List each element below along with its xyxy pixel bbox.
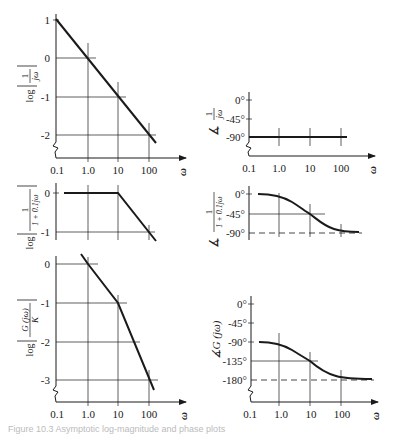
ytick-ph3-90: -90°	[228, 336, 247, 348]
figure-caption: Figure 10.3 Asymptotic log-magnitude and…	[8, 424, 225, 434]
xlabel-omega-c: ω	[177, 412, 189, 420]
xlabel-omega-a: ω	[176, 168, 188, 176]
svg-text:log: log	[24, 237, 35, 250]
xtick-a-1: 1.0	[81, 164, 95, 176]
svg-text:jω: jω	[30, 72, 40, 82]
ylabel-phase-integrator: ∡ 1 jω	[204, 108, 224, 136]
curve-mag-total	[81, 254, 154, 390]
ytick-mag1-0: 0	[45, 52, 51, 64]
svg-text:∡G (jω): ∡G (jω)	[210, 320, 223, 359]
ytick-ph3-45: -45°	[228, 317, 247, 329]
ytick-ph2-45: -45°	[226, 208, 245, 220]
xtick-a-2: 10	[113, 164, 125, 176]
ylabel-phase-total: ∡G (jω)	[210, 320, 223, 359]
svg-text:K: K	[30, 316, 40, 324]
svg-text:1 + 0.1jω: 1 + 0.1jω	[31, 194, 40, 226]
xtick-c-2: 10	[113, 408, 125, 420]
ytick-ph3-180: -180°	[222, 374, 247, 386]
svg-text:1: 1	[20, 208, 30, 213]
xlabel-omega-b: ω	[366, 166, 378, 174]
ytick-mag2-0: 0	[45, 187, 51, 199]
svg-text:G (jω): G (jω)	[20, 308, 30, 332]
curve-mag-lag	[64, 193, 156, 241]
ytick-ph3-135: -135°	[222, 355, 247, 367]
ytick-ph1-45: -45°	[226, 113, 245, 125]
xtick-b-3: 100	[333, 162, 350, 174]
ylabel-mag-lag: log 1 1 + 0.1jω	[17, 186, 40, 249]
ytick-mag1-m1: -1	[41, 91, 50, 103]
svg-text:∡: ∡	[207, 237, 221, 248]
curve-phase-total	[259, 342, 372, 379]
xlabel-omega-d: ω	[369, 412, 381, 420]
svg-text:log: log	[24, 90, 35, 103]
ytick-mag3-m1: -1	[41, 297, 50, 309]
svg-text:1: 1	[204, 112, 214, 117]
svg-text:1 + 0.1jω: 1 + 0.1jω	[215, 196, 224, 228]
xtick-d-0: 0.1	[243, 408, 257, 420]
ytick-ph3-0: 0°	[237, 298, 247, 310]
curve-phase-lag	[258, 194, 359, 232]
ytick-mag3-0: 0	[45, 258, 51, 270]
xtick-b-2: 10	[305, 162, 317, 174]
xtick-a-3: 100	[141, 164, 158, 176]
ytick-ph2-0: 0°	[235, 188, 245, 200]
ytick-ph2-90: -90°	[226, 227, 245, 239]
ylabel-mag-total: log G (jω) K	[17, 300, 40, 356]
ytick-ph1-90: -90°	[226, 131, 245, 143]
plot-mag-integrator	[53, 14, 186, 162]
xtick-c-1: 1.0	[81, 408, 95, 420]
plot-phase-total	[248, 296, 378, 406]
ylabel-mag-integrator: log 1 jω	[17, 66, 40, 102]
xtick-c-3: 100	[141, 408, 158, 420]
ytick-mag3-m3: -3	[41, 374, 51, 386]
xtick-b-1: 1.0	[272, 162, 286, 174]
xtick-d-2: 10	[306, 408, 318, 420]
ytick-mag1-1: 1	[45, 14, 51, 26]
xtick-b-0: 0.1	[242, 162, 256, 174]
plot-mag-lag	[53, 183, 156, 241]
svg-text:∡: ∡	[207, 125, 221, 136]
ytick-ph1-0: 0°	[235, 94, 245, 106]
svg-text:1: 1	[204, 210, 214, 215]
ylabel-phase-lag: ∡ 1 1 + 0.1jω	[204, 192, 224, 248]
xtick-c-0: 0.1	[50, 408, 64, 420]
xtick-d-1: 1.0	[274, 408, 288, 420]
svg-text:1: 1	[20, 74, 30, 79]
ytick-mag1-m2: -2	[41, 129, 50, 141]
plot-mag-total	[53, 254, 186, 406]
svg-text:log: log	[24, 344, 35, 357]
plot-phase-lag	[246, 186, 362, 240]
ytick-mag3-m2: -2	[41, 336, 50, 348]
plot-phase-integrator	[246, 92, 375, 156]
xtick-a-0: 0.1	[50, 164, 64, 176]
xtick-d-3: 100	[334, 408, 351, 420]
svg-text:jω: jω	[214, 110, 224, 120]
curve-mag-integrator	[56, 19, 156, 143]
ytick-mag2-m1: -1	[41, 226, 50, 238]
